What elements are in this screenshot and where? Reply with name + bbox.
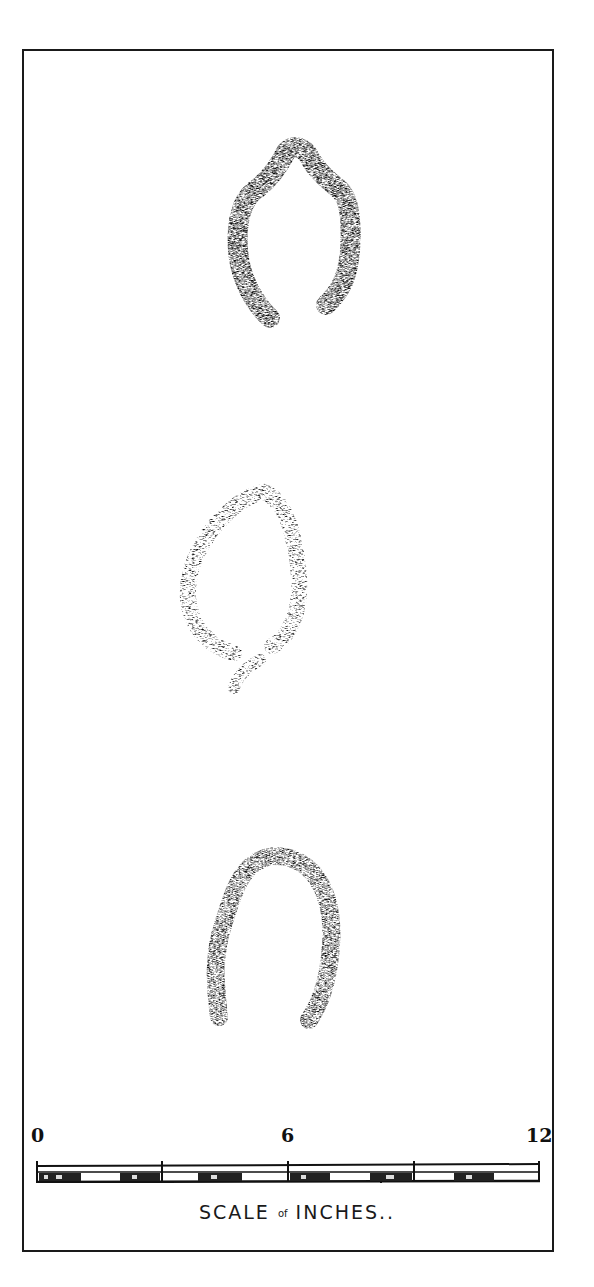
scale-caption: SCALE of INCHES.. [0,1201,594,1223]
scale-label-0: 0 [31,1126,44,1145]
scale-label-12: 12 [526,1126,552,1145]
scale-caption-main: SCALE [199,1201,270,1223]
footprint-middle [182,488,322,693]
footprint-bottom [205,845,345,1030]
footprint-top [228,140,368,325]
scale-bar [36,1161,541,1183]
scale-caption-of: of [278,1208,288,1219]
scale-label-6: 6 [281,1126,294,1145]
scale-caption-unit: INCHES.. [296,1201,396,1223]
